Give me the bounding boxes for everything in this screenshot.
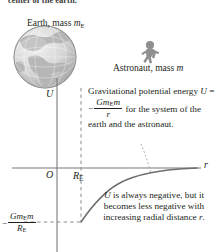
- formula-annotation: Gravitational potential energy U = −GmEm…: [88, 86, 216, 130]
- astronaut-icon: [141, 41, 159, 63]
- formula-numerator: GmEm: [94, 97, 122, 109]
- yval-fraction: GmEmRE: [8, 212, 35, 234]
- astronaut-mass-label: Astronaut, mass m: [113, 63, 183, 74]
- curve-note-annotation: U is always negative, but it becomes les…: [92, 190, 216, 223]
- astronaut-label-symbol: m: [177, 63, 184, 73]
- formula-line-3: for the system of the: [125, 104, 201, 114]
- formula-m: m: [114, 97, 121, 107]
- earth-label-text: Earth, mass: [27, 18, 74, 28]
- formula-line-2-prefix: energy: [173, 86, 200, 96]
- yval-numerator: GmEm: [8, 212, 35, 223]
- yval-denominator: RE: [8, 223, 35, 234]
- yval-m: m: [27, 211, 34, 221]
- astronaut-label-text: Astronaut, mass: [113, 63, 177, 73]
- note-U-symbol: U: [104, 190, 111, 200]
- figure-caption-top: center of the earth.: [8, 0, 77, 5]
- note-line-4-period: .: [202, 212, 204, 222]
- yval-sign: −: [2, 218, 7, 228]
- y-axis-label: U: [46, 88, 53, 100]
- earth-mass-label: Earth, mass mE: [27, 18, 85, 30]
- earth-globe-icon: [14, 26, 76, 88]
- x-axis-label: r: [204, 159, 208, 171]
- earth-label-symbol: m: [74, 18, 81, 28]
- dashed-guides: [24, 88, 81, 222]
- earth-label-subscript: E: [81, 22, 85, 29]
- formula-line-1: Gravitational potential: [88, 86, 171, 96]
- leader-dotted-line: [141, 144, 151, 174]
- formula-G: G: [96, 97, 103, 107]
- tick-R-subscript: E: [79, 175, 83, 183]
- y-axis-tick-label-minimum-U: −GmEmRE: [2, 212, 37, 234]
- formula-line-4: earth and the astronaut.: [88, 119, 174, 129]
- formula-denominator: r: [94, 109, 122, 120]
- note-line-1: is always negative,: [111, 190, 183, 200]
- formula-U-symbol: U: [200, 86, 207, 96]
- formula-fraction: GmEmr: [94, 97, 122, 119]
- note-line-4-prefix: radial distance: [143, 212, 199, 222]
- x-axis-tick-label-earth-radius: RE: [73, 170, 84, 183]
- origin-label: O: [46, 169, 53, 181]
- yval-R-subscript: E: [23, 226, 27, 233]
